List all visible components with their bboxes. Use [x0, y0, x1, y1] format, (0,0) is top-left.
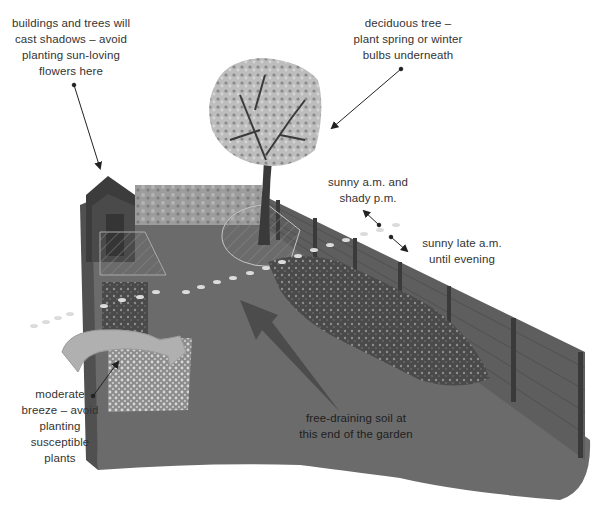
- annotation-drainage: free-draining soil at this end of the ga…: [298, 410, 414, 442]
- annotation-sunny-late-am: sunny late a.m. until evening: [408, 235, 516, 267]
- annotation-shadows: buildings and trees will cast shadows – …: [8, 15, 134, 79]
- annotation-deciduous-tree: deciduous tree – plant spring or winter …: [344, 15, 472, 63]
- garden-diagram: buildings and trees will cast shadows – …: [0, 0, 606, 509]
- annotation-breeze: moderate breeze – avoid planting suscept…: [14, 386, 106, 466]
- annotation-sunny-am: sunny a.m. and shady p.m.: [318, 174, 418, 206]
